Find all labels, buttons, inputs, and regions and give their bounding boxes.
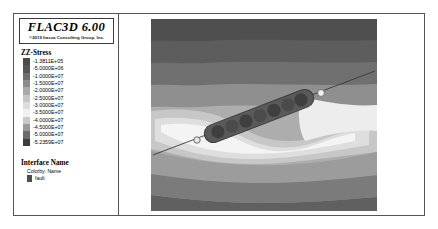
band-top-dark [151,19,377,42]
colorbar-segment [23,102,30,109]
app-copyright: ©2019 Itasca Consulting Group, Inc. [22,35,111,41]
colorbar-tick-label: -1.0000E+07 [33,73,63,80]
fault-node-lower [194,137,200,143]
flac3d-plot-window: FLAC3D 6.00 ©2019 Itasca Consulting Grou… [13,13,425,216]
interface-item-label: fault [35,175,45,182]
colorbar-segment [23,131,30,138]
interface-swatch [27,175,32,182]
colorscale-row: -1.3811E+05-5.0000E+06-1.0000E+07-1.5000… [21,58,119,146]
colorbar [23,58,30,146]
title-box: FLAC3D 6.00 ©2019 Itasca Consulting Grou… [19,18,114,44]
colorbar-tick-label: -2.0000E+07 [33,87,63,94]
colorbar-segment [23,95,30,102]
legend-panel: FLAC3D 6.00 ©2019 Itasca Consulting Grou… [14,14,119,215]
interface-colorby-label: Colorby: Name [27,168,117,175]
colorbar-tick-label: -3.0000E+07 [33,102,63,109]
interface-legend: Interface Name Colorby: Name fault [21,159,117,182]
contour-plot-canvas [151,19,377,211]
colorbar-tick-label: -4.5000E+07 [33,124,63,131]
contour-field [151,19,377,211]
colorbar-tick-label: -1.3811E+05 [33,58,63,65]
colorbar-segment [23,117,30,124]
colorbar-tick-label: -4.0000E+07 [33,117,63,124]
colorbar-tick-label: -5.2359E+07 [33,139,63,146]
colorbar-tick-label: -5.0000E+07 [33,131,63,138]
colorbar-segment [23,87,30,94]
colorbar-tick-label: -2.5000E+07 [33,95,63,102]
plot-panel [119,14,424,215]
app-title: FLAC3D 6.00 [22,21,111,34]
band-upper-dark [151,40,377,64]
colorbar-segment [23,73,30,80]
colorbar-tick-label: -5.0000E+06 [33,65,63,72]
colorbar-segment [23,124,30,131]
colorbar-tick-label: -1.5000E+07 [33,80,63,87]
interface-heading: Interface Name [21,159,117,167]
colorbar-segment [23,58,30,65]
colorbar-tick-label: -3.5000E+07 [33,109,63,116]
colorbar-segment [23,80,30,87]
colorbar-segment [23,109,30,116]
legend-heading: ZZ-Stress [21,49,119,57]
colorbar-segment [23,139,30,146]
colorbar-tick-list: -1.3811E+05-5.0000E+06-1.0000E+07-1.5000… [33,58,63,146]
zz-stress-legend: ZZ-Stress -1.3811E+05-5.0000E+06-1.0000E… [21,49,119,146]
interface-item: fault [27,175,117,182]
interface-item-list: fault [21,175,117,182]
fault-node-upper [318,90,325,97]
colorbar-segment [23,65,30,72]
